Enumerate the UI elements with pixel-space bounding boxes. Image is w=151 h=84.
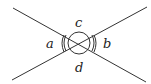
angle-circle [68, 32, 90, 54]
angle-b-arc-inner [92, 35, 94, 51]
angle-diagram: a b c d [0, 0, 151, 84]
label-b: b [103, 36, 111, 51]
label-c: c [75, 15, 83, 30]
label-a: a [46, 36, 54, 51]
label-d: d [75, 60, 83, 75]
